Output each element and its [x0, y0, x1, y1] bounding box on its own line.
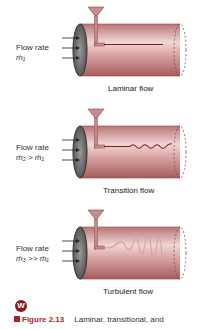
laminar-pipe	[62, 7, 186, 76]
figure-number: Figure 2.13	[22, 315, 64, 324]
laminar-caption: Laminar flow	[108, 84, 153, 93]
mass-flow-text: ṁ₂ > ṁ₁	[16, 153, 49, 163]
flow-rate-text: Flow rate	[16, 143, 49, 153]
square-bullet-icon	[14, 316, 20, 322]
flow-rate-text: Flow rate	[16, 43, 49, 53]
turbulent-pipe	[62, 210, 186, 279]
flow-rate-label-laminar: Flow rate ṁ₁	[16, 43, 49, 63]
w-badge-icon[interactable]: W	[15, 300, 27, 312]
transition-caption: Transition flow	[103, 186, 154, 195]
flow-rate-label-turbulent: Flow rate ṁ₃ >> ṁ₁	[16, 244, 49, 264]
flow-rate-text: Flow rate	[16, 244, 49, 254]
flow-rate-label-transition: Flow rate ṁ₂ > ṁ₁	[16, 143, 49, 163]
transition-pipe	[62, 109, 186, 178]
figure-caption: Figure 2.13Laminar, transitional, and	[14, 315, 164, 324]
figure-text: Laminar, transitional, and	[74, 315, 163, 324]
mass-flow-text: ṁ₁	[16, 53, 49, 63]
turbulent-caption: Turbulent flow	[103, 287, 153, 296]
mass-flow-text: ṁ₃ >> ṁ₁	[16, 254, 49, 264]
